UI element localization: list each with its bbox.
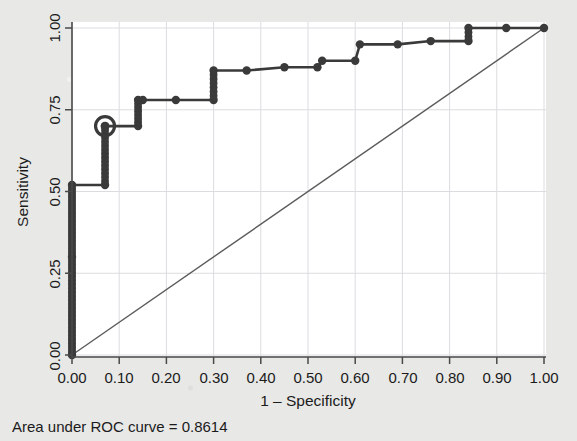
x-tick-label-0.50: 0.50	[293, 369, 322, 386]
roc-chart-svg: 1.00 0.75 0.50 0.25 0.00 Sensitivity 0.0…	[0, 0, 577, 441]
y-tick-label-1.00: 1.00	[46, 13, 63, 42]
y-tick-label-0.75: 0.75	[46, 95, 63, 124]
x-tick-label-0.80: 0.80	[435, 369, 464, 386]
plot-container: 1.00 0.75 0.50 0.25 0.00 Sensitivity 0.0…	[0, 0, 577, 441]
auc-caption: Area under ROC curve = 0.8614	[12, 418, 228, 435]
x-tick-label-0.90: 0.90	[482, 369, 511, 386]
x-axis-tick-marks	[72, 357, 544, 364]
y-tick-label-0.50: 0.50	[46, 177, 63, 206]
x-tick-label-0.70: 0.70	[388, 369, 417, 386]
x-tick-label-0.20: 0.20	[151, 369, 180, 386]
x-tick-label-0.00: 0.00	[57, 369, 86, 386]
x-tick-label-0.10: 0.10	[104, 369, 133, 386]
x-tick-label-1.00: 1.00	[529, 369, 558, 386]
y-tick-label-0.25: 0.25	[46, 259, 63, 288]
x-axis-title: 1 – Specificity	[260, 392, 356, 409]
x-tick-label-0.30: 0.30	[199, 369, 228, 386]
x-tick-label-0.60: 0.60	[340, 369, 369, 386]
y-tick-label-0.00: 0.00	[46, 341, 63, 370]
roc-figure-page: 1.00 0.75 0.50 0.25 0.00 Sensitivity 0.0…	[0, 0, 577, 441]
y-axis-title: Sensitivity	[14, 157, 31, 227]
x-tick-label-0.40: 0.40	[246, 369, 275, 386]
